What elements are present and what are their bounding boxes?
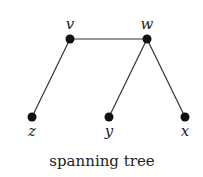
caption: spanning tree (49, 152, 154, 170)
node-label-z: z (27, 122, 36, 140)
node-x (181, 113, 190, 122)
node-label-w: w (141, 15, 154, 33)
edge-v-z (32, 39, 70, 117)
node-y (105, 113, 114, 122)
node-label-y: y (104, 122, 114, 140)
node-v (66, 35, 75, 44)
node-label-x: x (181, 122, 190, 140)
node-z (28, 113, 37, 122)
edge-w-x (147, 39, 185, 117)
edges-group (32, 39, 185, 117)
spanning-tree-diagram: vwzyx spanning tree (0, 0, 203, 177)
node-label-v: v (66, 15, 75, 33)
node-w (143, 35, 152, 44)
edge-w-y (109, 39, 147, 117)
